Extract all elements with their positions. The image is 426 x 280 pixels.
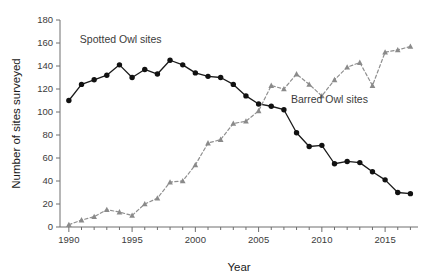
data-point-marker [193, 70, 198, 75]
data-point-marker [395, 190, 400, 195]
y-tick-label: 120 [37, 83, 53, 94]
data-point-marker [256, 101, 261, 106]
y-axis-title: Number of sites surveyed [10, 58, 22, 188]
y-tick-label: 60 [42, 152, 53, 163]
series-group [66, 43, 413, 227]
series-annotation-label-2: Barred Owl sites [291, 93, 368, 105]
series-markers-2 [66, 43, 413, 227]
series-markers-1 [66, 58, 413, 197]
data-point-marker [129, 75, 134, 80]
data-point-marker [91, 214, 97, 219]
x-tick-label: 2005 [248, 234, 269, 245]
owl-sites-line-chart: 020406080100120140160180 199019952000200… [0, 0, 426, 280]
y-tick-label: 160 [37, 37, 53, 48]
chart-canvas: 020406080100120140160180 199019952000200… [0, 0, 426, 280]
data-point-marker [155, 71, 160, 76]
data-point-marker [382, 177, 387, 182]
data-point-marker [231, 82, 236, 87]
data-point-marker [79, 82, 84, 87]
data-point-marker [357, 160, 362, 165]
data-point-marker [117, 62, 122, 67]
data-point-marker [218, 75, 223, 80]
data-point-marker [332, 77, 338, 82]
data-point-marker [268, 83, 274, 88]
x-axis-tick-group: 199019952000200520102015 [58, 227, 410, 245]
data-point-marker [294, 71, 300, 76]
data-point-marker [357, 60, 363, 65]
series-annotation-label-1: Spotted Owl sites [80, 33, 162, 45]
x-tick-label: 1990 [58, 234, 79, 245]
data-point-marker [344, 64, 350, 69]
data-point-marker [243, 93, 248, 98]
data-point-marker [294, 130, 299, 135]
data-point-marker [370, 83, 376, 88]
data-point-marker [408, 191, 413, 196]
data-point-marker [142, 67, 147, 72]
data-point-marker [319, 143, 324, 148]
data-point-marker [180, 62, 185, 67]
x-axis-title: Year [227, 261, 250, 273]
data-point-marker [370, 169, 375, 174]
y-tick-label: 100 [37, 106, 53, 117]
x-tick-label: 2000 [185, 234, 206, 245]
data-point-marker [307, 144, 312, 149]
data-point-marker [205, 74, 210, 79]
y-tick-label: 40 [42, 175, 53, 186]
series-line-1 [69, 60, 411, 193]
y-tick-label: 20 [42, 198, 53, 209]
data-point-marker [104, 207, 110, 212]
data-point-marker [91, 77, 96, 82]
series-line-2 [69, 46, 411, 224]
x-tick-label: 2015 [375, 234, 396, 245]
x-tick-label: 2010 [311, 234, 332, 245]
data-point-marker [332, 161, 337, 166]
data-point-marker [104, 73, 109, 78]
y-tick-label: 180 [37, 14, 53, 25]
data-point-marker [167, 58, 172, 63]
y-tick-label: 0 [48, 221, 53, 232]
x-tick-label: 1995 [122, 234, 143, 245]
data-point-marker [281, 107, 286, 112]
y-tick-label: 140 [37, 60, 53, 71]
data-point-marker [256, 108, 262, 113]
data-point-marker [344, 159, 349, 164]
y-axis-tick-group: 020406080100120140160180 [37, 14, 60, 232]
data-point-marker [281, 86, 287, 91]
data-point-marker [269, 104, 274, 109]
data-point-marker [79, 217, 85, 222]
data-point-marker [408, 43, 414, 48]
data-point-marker [193, 162, 199, 167]
y-tick-label: 80 [42, 129, 53, 140]
data-point-marker [66, 98, 71, 103]
